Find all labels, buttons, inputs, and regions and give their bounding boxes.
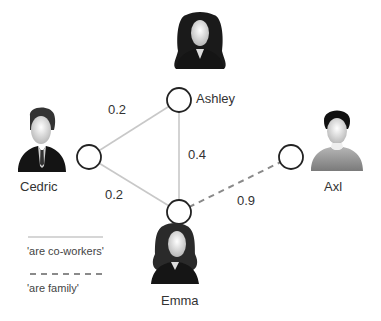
edge-cedric-emma	[89, 157, 179, 212]
legend-label-family: 'are family'	[27, 282, 79, 294]
edge-emma-axl	[179, 157, 291, 212]
node-label-emma: Emma	[161, 293, 199, 308]
node-label-axl: Axl	[324, 179, 342, 194]
edge-weight-cedric-ashley: 0.2	[108, 102, 126, 117]
node-emma	[167, 200, 191, 224]
edge-cedric-ashley	[89, 100, 179, 157]
edge-weight-cedric-emma: 0.2	[105, 187, 123, 202]
female-person-icon	[174, 12, 225, 69]
node-cedric	[77, 145, 101, 169]
female-person-icon	[151, 223, 199, 284]
node-ashley	[167, 88, 191, 112]
node-label-cedric: Cedric	[20, 179, 58, 194]
legend-label-coworkers: 'are co-workers'	[27, 245, 104, 257]
male-casual-person-icon	[311, 111, 363, 172]
male-businessman-icon	[18, 107, 66, 172]
edge-weight-emma-axl: 0.9	[237, 193, 255, 208]
node-label-ashley: Ashley	[196, 91, 235, 106]
node-axl	[279, 145, 303, 169]
edge-weight-ashley-emma: 0.4	[188, 147, 206, 162]
